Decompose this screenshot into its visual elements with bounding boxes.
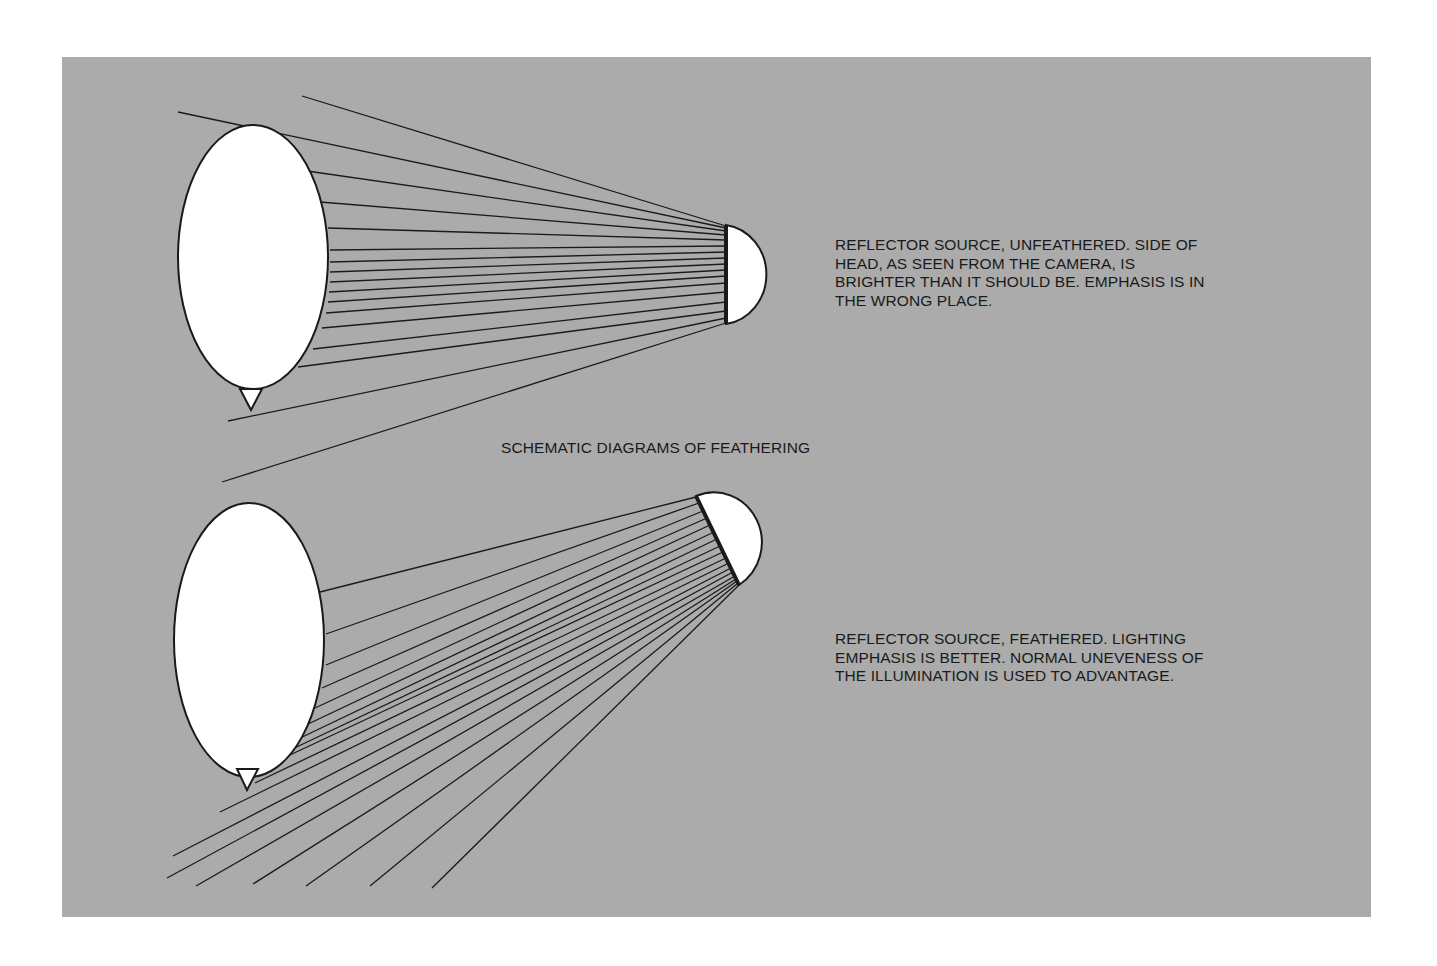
- light-ray: [298, 311, 726, 367]
- light-ray: [432, 585, 739, 888]
- light-ray: [322, 292, 726, 328]
- light-ray: [286, 546, 720, 752]
- caption-unfeathered: REFLECTOR SOURCE, UNFEATHERED. SIDE OF H…: [835, 236, 1305, 310]
- light-ray: [320, 497, 696, 592]
- light-ray: [330, 246, 726, 250]
- reflector-feathered: [696, 492, 762, 585]
- light-ray: [306, 532, 714, 725]
- light-ray: [326, 503, 699, 634]
- nose-marker-feathered: [237, 769, 258, 790]
- head-ellipse-unfeathered: [178, 125, 328, 389]
- diagram-title: SCHEMATIC DIAGRAMS OF FEATHERING: [501, 439, 901, 458]
- light-ray: [306, 581, 737, 886]
- feathered-diagram: [167, 492, 762, 888]
- head-ellipse-feathered: [174, 503, 324, 777]
- light-ray: [275, 552, 723, 762]
- light-ray: [370, 583, 738, 886]
- nose-marker-unfeathered: [240, 389, 262, 410]
- caption-feathered: REFLECTOR SOURCE, FEATHERED. LIGHTING EM…: [835, 630, 1305, 686]
- light-ray: [255, 558, 726, 783]
- light-ray: [300, 170, 726, 231]
- reflector-unfeathered: [726, 225, 766, 324]
- feathering-diagram: [0, 0, 1437, 966]
- light-ray: [302, 96, 726, 226]
- unfeathered-diagram: [178, 96, 766, 482]
